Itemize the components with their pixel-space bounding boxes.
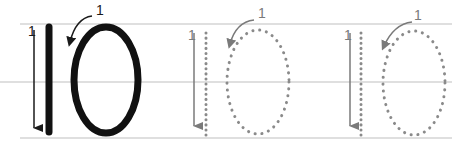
example-dotted-1 [194,20,289,136]
stroke-order-label: 1 [344,28,352,42]
digit-zero-dotted [383,31,445,135]
guide-lines [0,24,452,138]
digit-zero-solid [74,27,138,133]
example-solid [34,16,138,133]
stroke-order-label: 1 [96,3,104,17]
tracing-worksheet: 1 1 1 1 1 1 [0,0,462,154]
stroke-order-label: 1 [28,24,36,38]
zero-direction-arrow-icon [384,22,412,46]
example-dotted-2 [350,22,445,136]
worksheet-canvas [0,0,462,154]
stroke-order-label: 1 [414,8,422,22]
stroke-order-label: 1 [258,6,266,20]
stroke-order-label: 1 [188,28,196,42]
